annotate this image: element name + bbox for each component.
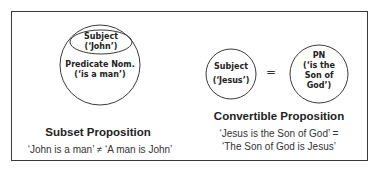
subset-title: Subset Proposition	[18, 126, 178, 138]
convertible-title: Convertible Proposition	[199, 110, 359, 122]
subset-caption: ‘John is a man’ ≠ ‘A man is John’	[12, 143, 188, 156]
subject-circle-label: Subject (‘Jesus’)	[206, 60, 256, 88]
convertible-caption: ‘Jesus is the Son of God’ = ‘The Son of …	[199, 127, 359, 153]
predicate-label: Predicate Nom. (‘is a man’)	[60, 60, 140, 80]
subject-ellipse-label: Subject (‘John’)	[71, 32, 131, 52]
pn-circle-label: PN (‘is the Son of God’)	[294, 51, 344, 91]
equals-sign: =	[263, 65, 279, 79]
